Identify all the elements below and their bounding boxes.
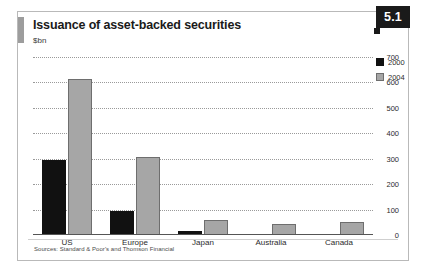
figure-card: Issuance of asset-backed securities $bn … [17, 11, 409, 261]
y-axis-tick-label: 100 [375, 205, 399, 214]
bar-us-2000 [42, 160, 66, 235]
legend-item-2000: 2000 [376, 56, 405, 68]
bar-europe-2000 [110, 211, 134, 235]
legend-item-2004: 2004 [376, 71, 405, 83]
x-axis-line [33, 234, 373, 235]
bar-group [178, 57, 228, 235]
plot-area [33, 57, 373, 235]
chart-subtitle: $bn [33, 35, 333, 46]
legend-label-2000: 2000 [388, 58, 405, 67]
legend-swatch-2004 [376, 73, 384, 81]
bar-group [246, 57, 296, 235]
y-axis-tick-label: 300 [375, 154, 399, 163]
figure-page: Issuance of asset-backed securities $bn … [0, 0, 424, 278]
bar-group [42, 57, 92, 235]
badge-notch [374, 28, 380, 34]
figure-header: Issuance of asset-backed securities $bn [33, 18, 333, 46]
legend-swatch-2000 [376, 58, 384, 66]
bar-group [314, 57, 364, 235]
bar-europe-2004 [136, 157, 160, 235]
figure-number-badge: 5.1 [376, 6, 410, 28]
y-axis-tick-label: 200 [375, 180, 399, 189]
bar-group [110, 57, 160, 235]
legend-label-2004: 2004 [388, 73, 405, 82]
y-axis-tick-label: 500 [375, 103, 399, 112]
left-edge-tab [18, 17, 24, 43]
bar-series-container [33, 57, 373, 235]
y-axis-tick-label: 400 [375, 129, 399, 138]
chart-legend: 20002004 [376, 56, 405, 86]
bar-japan-2004 [204, 220, 228, 235]
footer-divider [28, 239, 398, 240]
bar-us-2004 [68, 79, 92, 235]
source-note: Sources: Standard & Poor's and Thomson F… [34, 246, 174, 252]
page-title: Issuance of asset-backed securities [33, 18, 333, 33]
